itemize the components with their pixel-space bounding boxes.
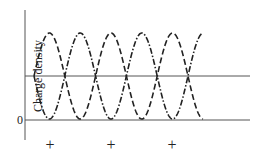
plus-marker: + [105, 137, 117, 153]
plus-marker: + [166, 137, 178, 153]
plus-marker: + [44, 137, 56, 153]
y-axis-label: Charge density [31, 40, 46, 112]
zero-label: 0 [17, 113, 23, 128]
